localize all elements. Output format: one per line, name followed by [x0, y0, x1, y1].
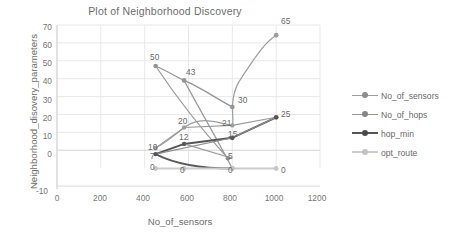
- y-tick-10: 10: [26, 132, 52, 140]
- legend-item-opt-route[interactable]: opt_route: [352, 143, 460, 162]
- x-tick-1000: 1000: [259, 194, 289, 202]
- data-label-5: 5: [228, 152, 233, 160]
- y-tick-30: 30: [26, 96, 52, 104]
- y-tick-40: 40: [26, 77, 52, 85]
- data-label-65: 65: [281, 17, 290, 25]
- legend-marker-no-of-sensors: [352, 91, 378, 101]
- data-label-21: 21: [222, 119, 231, 127]
- series-line-hop-min-lower: [156, 154, 233, 168]
- y-tick-20: 20: [26, 114, 52, 122]
- y-tick-60: 60: [26, 41, 52, 49]
- legend-label-opt-route: opt_route: [381, 148, 417, 158]
- data-label-15: 15: [228, 130, 237, 138]
- data-label-50: 50: [150, 53, 159, 61]
- series-branch-descending-a: [156, 66, 228, 158]
- legend-marker-hop-min: [352, 129, 378, 139]
- data-label-7: 7: [150, 152, 155, 160]
- legend-item-hop-min[interactable]: hop_min: [352, 124, 460, 143]
- legend-item-no-of-hops[interactable]: No_of_hops: [352, 105, 460, 124]
- y-tick-0: 0: [26, 150, 52, 158]
- x-axis-title: No_of_sensors: [55, 216, 305, 227]
- data-label-43: 43: [186, 68, 195, 76]
- y-tick-50: 50: [26, 59, 52, 67]
- data-label-10: 10: [148, 143, 157, 151]
- legend: No_of_sensors No_of_hops hop_min opt_rou…: [352, 86, 460, 162]
- y-tick-70: 70: [26, 23, 52, 31]
- data-label-20: 20: [178, 117, 187, 125]
- legend-label-no-of-sensors: No_of_sensors: [381, 91, 439, 101]
- legend-marker-no-of-hops: [352, 110, 378, 120]
- data-label-25: 25: [281, 110, 290, 118]
- x-tick-400: 400: [128, 194, 158, 202]
- x-tick-800: 800: [215, 194, 245, 202]
- series-connector-lower: [184, 144, 232, 158]
- data-label-0-800: 0: [228, 166, 233, 174]
- legend-marker-opt-route: [352, 148, 378, 158]
- data-label-30: 30: [238, 96, 247, 104]
- x-tick-0: 0: [42, 194, 72, 202]
- legend-label-no-of-hops: No_of_hops: [381, 110, 427, 120]
- x-tick-600: 600: [172, 194, 202, 202]
- x-tick-200: 200: [85, 194, 115, 202]
- data-label-0-450: 0: [150, 163, 155, 171]
- data-label-12: 12: [179, 133, 188, 141]
- legend-item-no-of-sensors[interactable]: No_of_sensors: [352, 86, 460, 105]
- data-label-0-580: 0: [180, 166, 185, 174]
- legend-label-hop-min: hop_min: [381, 129, 414, 139]
- x-tick-1200: 1200: [302, 194, 332, 202]
- chart-root: Plot of Neighborhood Discovery Neighborh…: [0, 0, 463, 235]
- data-label-0-1000: 0: [281, 166, 286, 174]
